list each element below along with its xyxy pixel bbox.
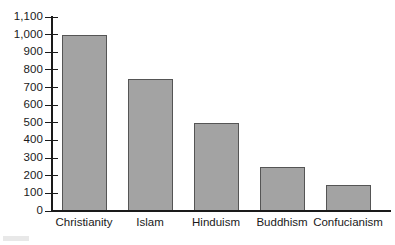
bar bbox=[128, 79, 173, 211]
x-axis-line bbox=[51, 210, 391, 212]
bar bbox=[194, 123, 239, 211]
x-tick-label: Hinduism bbox=[179, 216, 253, 229]
bar bbox=[62, 35, 107, 211]
x-tick-label: Christianity bbox=[47, 216, 121, 229]
bar bbox=[260, 167, 305, 211]
x-tick-label: Buddhism bbox=[245, 216, 319, 229]
scan-artifact bbox=[3, 236, 29, 241]
x-tick-label: Confucianism bbox=[311, 216, 385, 229]
x-tick-label: Islam bbox=[113, 216, 187, 229]
bar bbox=[326, 185, 371, 211]
bar-chart: 01002003004005006007008009001,0001,100 C… bbox=[0, 0, 395, 245]
bar-series bbox=[0, 0, 395, 245]
